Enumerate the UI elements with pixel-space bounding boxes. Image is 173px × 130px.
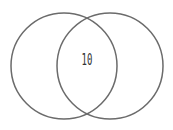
intersection-label: 10	[80, 51, 93, 69]
right-set-circle	[57, 13, 163, 119]
left-set-circle	[11, 13, 117, 119]
